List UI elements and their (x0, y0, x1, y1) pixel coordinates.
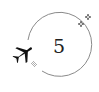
plane-trail (31, 61, 37, 67)
sparkle-icon (85, 14, 91, 20)
step-number: 5 (49, 34, 69, 58)
step-badge: 5 (0, 0, 99, 92)
